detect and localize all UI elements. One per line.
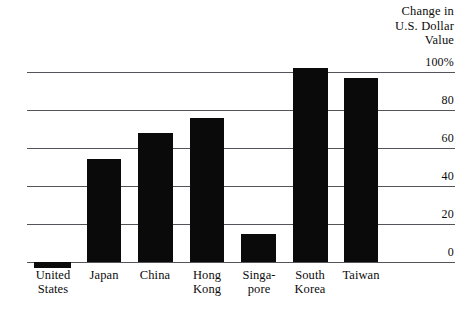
bar-south-korea xyxy=(293,68,328,262)
x-axis-label-taiwan-line-1: Taiwan xyxy=(342,268,379,282)
x-axis-label-south-korea-line-1: South xyxy=(295,268,325,282)
x-axis-label-japan-line-1: Japan xyxy=(90,268,119,282)
y-axis-tick-0: 0 xyxy=(394,246,454,259)
gridline-80 xyxy=(27,110,455,111)
y-axis-tick-100: 100% xyxy=(394,56,454,69)
gridline-100 xyxy=(27,72,455,73)
gridline-zero-baseline xyxy=(27,262,455,263)
y-axis-tick-60: 60 xyxy=(394,132,454,145)
bar-singapore xyxy=(241,234,276,263)
bar-chart-figure: Change in U.S. Dollar Value 100% 80 60 4… xyxy=(0,0,462,315)
x-axis-label-singapore-line-1: Singa- xyxy=(242,268,275,282)
x-axis-label-united-states-line-1: United xyxy=(36,268,71,282)
bar-china xyxy=(138,133,173,262)
bar-taiwan xyxy=(344,78,378,262)
x-axis-label-hong-kong-line-1: Hong xyxy=(193,268,221,282)
y-axis-tick-20: 20 xyxy=(394,208,454,221)
bar-hong-kong xyxy=(190,118,224,262)
bar-united-states xyxy=(34,262,71,268)
x-axis-label-china-line-1: China xyxy=(140,268,170,282)
gridline-60 xyxy=(27,148,455,149)
x-axis-label-south-korea-line-2: Korea xyxy=(279,282,341,296)
plot-area: 100% 80 60 40 20 0 United States Japan C… xyxy=(0,0,462,315)
x-axis-label-united-states-line-2: States xyxy=(22,282,84,296)
y-axis-tick-80: 80 xyxy=(394,94,454,107)
x-axis-label-taiwan: Taiwan xyxy=(330,268,392,282)
bar-japan xyxy=(87,159,121,262)
y-axis-tick-40: 40 xyxy=(394,170,454,183)
